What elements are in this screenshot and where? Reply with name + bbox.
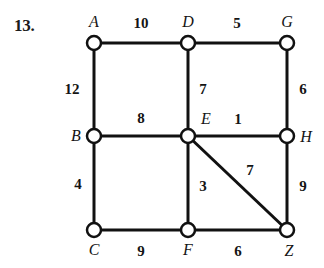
graph-node-E bbox=[181, 129, 195, 143]
node-label-F: F bbox=[183, 242, 193, 258]
graph-node-B bbox=[87, 129, 101, 143]
edge-weight-AD: 10 bbox=[134, 16, 149, 31]
graph-node-C bbox=[87, 223, 101, 237]
graph-node-G bbox=[280, 36, 294, 50]
graph-node-A bbox=[87, 36, 101, 50]
edge-weight-HZ: 9 bbox=[299, 179, 307, 194]
node-label-B: B bbox=[71, 128, 81, 144]
problem-figure: 13. 105127681437996ADGBEHCFZ bbox=[0, 0, 324, 268]
node-label-Z: Z bbox=[285, 243, 294, 259]
edge-weight-BC: 4 bbox=[74, 177, 82, 192]
edge-weight-FZ: 6 bbox=[234, 244, 242, 259]
edge-weight-BE: 8 bbox=[137, 111, 145, 126]
node-label-E: E bbox=[201, 111, 211, 127]
edge-weight-CF: 9 bbox=[137, 244, 145, 259]
graph-diagram bbox=[0, 0, 324, 268]
edge-weight-EH: 1 bbox=[234, 112, 242, 127]
edge-weight-GH: 6 bbox=[299, 82, 307, 97]
edge-weight-AB: 12 bbox=[65, 82, 80, 97]
graph-node-Z bbox=[280, 223, 294, 237]
graph-node-H bbox=[280, 129, 294, 143]
edge-weight-DE: 7 bbox=[199, 82, 207, 97]
node-label-C: C bbox=[89, 242, 100, 258]
edge-weight-EF: 3 bbox=[199, 179, 207, 194]
node-label-H: H bbox=[300, 129, 312, 145]
edge-weight-EZ: 7 bbox=[246, 163, 254, 178]
edge-weight-DG: 5 bbox=[233, 16, 241, 31]
graph-node-D bbox=[181, 36, 195, 50]
graph-node-F bbox=[181, 223, 195, 237]
node-label-A: A bbox=[89, 14, 99, 30]
node-label-D: D bbox=[182, 14, 194, 30]
node-label-G: G bbox=[281, 14, 293, 30]
